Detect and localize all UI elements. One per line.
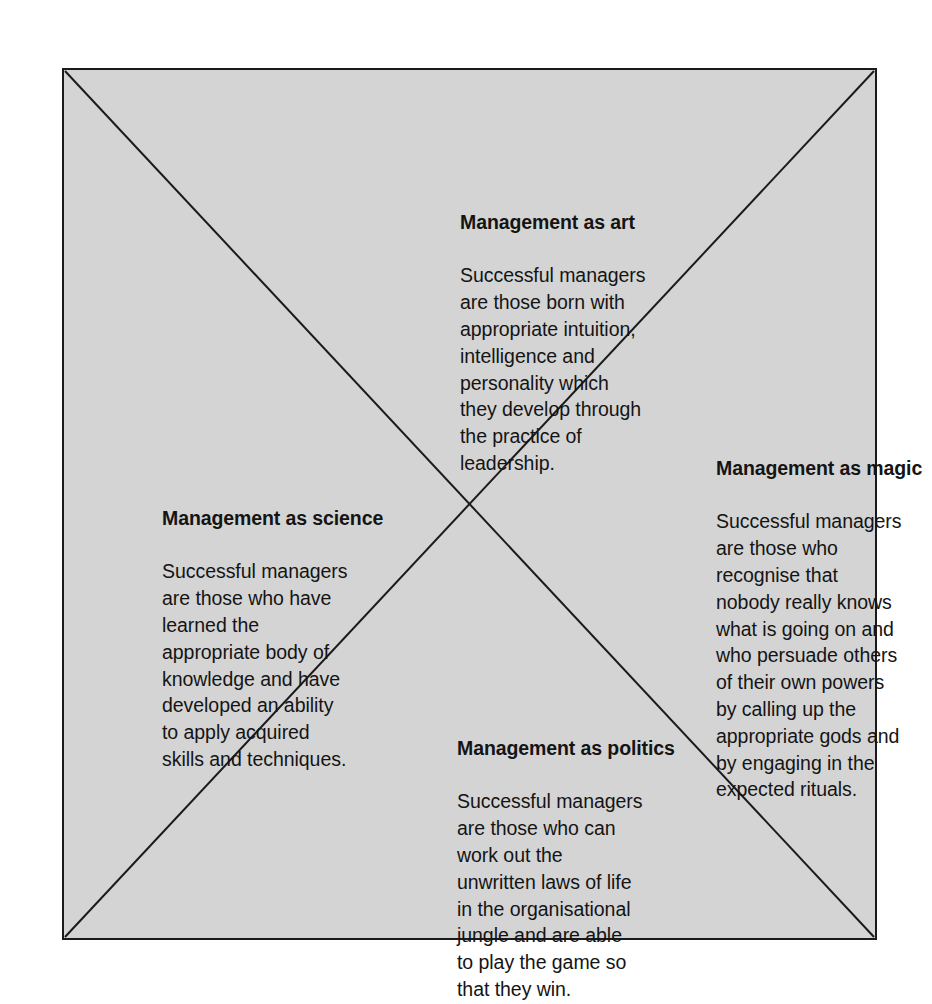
quadrant-art-body: Successful managers are those born with … [460, 262, 710, 476]
quadrant-politics-body: Successful managers are those who can wo… [457, 788, 707, 1002]
quadrant-science: Management as science Successful manager… [162, 478, 417, 800]
diagram-frame: Management as art Successful managers ar… [62, 68, 877, 940]
quadrant-politics-title: Management as politics [457, 735, 707, 762]
quadrant-politics: Management as politics Successful manage… [457, 708, 707, 1004]
quadrant-magic-body: Successful managers are those who recogn… [716, 508, 932, 803]
quadrant-magic-title: Management as magic [716, 455, 932, 482]
quadrant-art: Management as art Successful managers ar… [460, 182, 710, 504]
quadrant-magic: Management as magic Successful managers … [716, 428, 932, 830]
quadrant-art-title: Management as art [460, 209, 710, 236]
quadrant-science-title: Management as science [162, 505, 417, 532]
quadrant-science-body: Successful managers are those who have l… [162, 558, 417, 772]
